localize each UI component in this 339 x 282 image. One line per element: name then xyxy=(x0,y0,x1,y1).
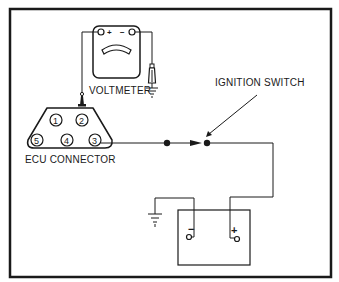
ignition-switch-pointer xyxy=(209,95,257,134)
ecu-pin-5-label: 5 xyxy=(34,136,39,146)
voltmeter-minus-sign: − xyxy=(120,28,125,37)
positive-probe-icon xyxy=(78,92,86,106)
switch-arrow-icon xyxy=(190,140,202,146)
ecu-pin-1-label: 1 xyxy=(53,116,58,126)
ecu-pin-2-label: 2 xyxy=(79,116,84,126)
voltmeter: + − xyxy=(93,26,140,78)
voltmeter-plus-sign: + xyxy=(107,28,112,37)
diagram-svg: + − xyxy=(0,0,339,282)
voltmeter-negative-terminal xyxy=(129,29,135,35)
battery-negative-sign: − xyxy=(188,223,194,235)
ecu-pin-4-label: 4 xyxy=(64,136,69,146)
ecu-connector-label: ECU CONNECTOR xyxy=(25,155,116,165)
voltmeter-positive-terminal xyxy=(98,29,104,35)
voltmeter-label: VOLTMETER xyxy=(89,86,151,96)
battery: − + xyxy=(178,210,250,265)
battery-positive-sign: + xyxy=(231,224,237,236)
ignition-switch-label: IGNITION SWITCH xyxy=(215,78,305,88)
battery-positive-terminal xyxy=(235,237,240,242)
ecu-pin-3-label: 3 xyxy=(92,136,97,146)
battery-ground-icon xyxy=(148,214,162,227)
diagram-canvas: + − xyxy=(0,0,339,282)
battery-negative-terminal xyxy=(187,235,192,240)
ecu-connector: 1 2 5 4 3 xyxy=(28,108,113,148)
